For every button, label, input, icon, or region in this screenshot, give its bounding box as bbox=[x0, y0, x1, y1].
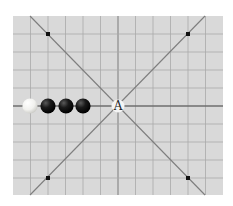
black-stone bbox=[58, 98, 73, 113]
star-point bbox=[46, 32, 50, 36]
star-point bbox=[46, 176, 50, 180]
marker-label: A bbox=[113, 99, 123, 113]
gomoku-diagram: A bbox=[0, 0, 233, 206]
black-stone bbox=[40, 98, 55, 113]
board: A bbox=[0, 0, 233, 206]
star-point bbox=[186, 32, 190, 36]
white-stone bbox=[22, 98, 37, 113]
star-point bbox=[186, 176, 190, 180]
black-stone bbox=[75, 98, 90, 113]
